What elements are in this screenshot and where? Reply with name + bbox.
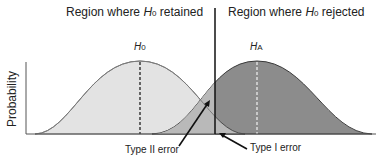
type-ii-error-label: Type II error [125, 144, 179, 155]
type-i-arrow [222, 135, 247, 149]
region-retained-label: Region where H0 retained [66, 5, 203, 19]
type-i-error-label: Type I error [250, 142, 301, 153]
h0-label: H0 [134, 41, 146, 52]
hypothesis-test-diagram [0, 0, 387, 167]
region-rejected-label: Region where H0 rejected [228, 5, 365, 19]
ha-label: HA [250, 41, 263, 52]
y-axis-label: Probability [5, 71, 19, 127]
